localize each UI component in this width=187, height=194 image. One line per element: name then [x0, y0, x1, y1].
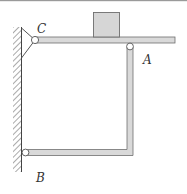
pin-c: [31, 36, 38, 43]
pin-b: [22, 149, 29, 156]
load-block: [94, 13, 120, 38]
pin-a: [127, 43, 134, 50]
wall: [13, 27, 22, 172]
mechanics-diagram: C A B: [0, 0, 187, 194]
wall-hatch: [13, 27, 21, 172]
top-rule: [0, 0, 187, 1]
beam-ca: [35, 37, 175, 43]
label-c: C: [37, 22, 46, 36]
bent-bar-ab: [25, 47, 133, 156]
label-b: B: [35, 171, 45, 185]
label-a: A: [142, 53, 152, 67]
